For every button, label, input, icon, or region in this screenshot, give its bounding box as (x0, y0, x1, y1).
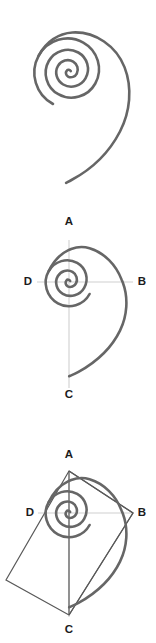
panel-3-canvas: A B D C (0, 425, 156, 643)
panel-bare-spiral (0, 0, 156, 215)
panel-spiral-with-quadrilateral: A B D C (0, 425, 156, 643)
vertex-label-c: C (65, 388, 73, 400)
spiral-outer-sweep (49, 247, 127, 376)
panel-spiral-with-axes: A B D C (0, 210, 156, 425)
panel-1-canvas (0, 0, 156, 215)
vertex-label-b: B (138, 275, 146, 287)
figure-stack: A B D C A B D C (0, 0, 156, 643)
vertex-label-a: A (65, 448, 73, 460)
panel-2-canvas: A B D C (0, 210, 156, 425)
vertex-label-b: B (138, 506, 146, 518)
vertex-label-d: D (26, 506, 34, 518)
vertex-label-d: D (24, 275, 32, 287)
vertex-label-a: A (65, 215, 73, 227)
vertex-label-c: C (65, 623, 73, 635)
chord-b-c (69, 513, 133, 615)
